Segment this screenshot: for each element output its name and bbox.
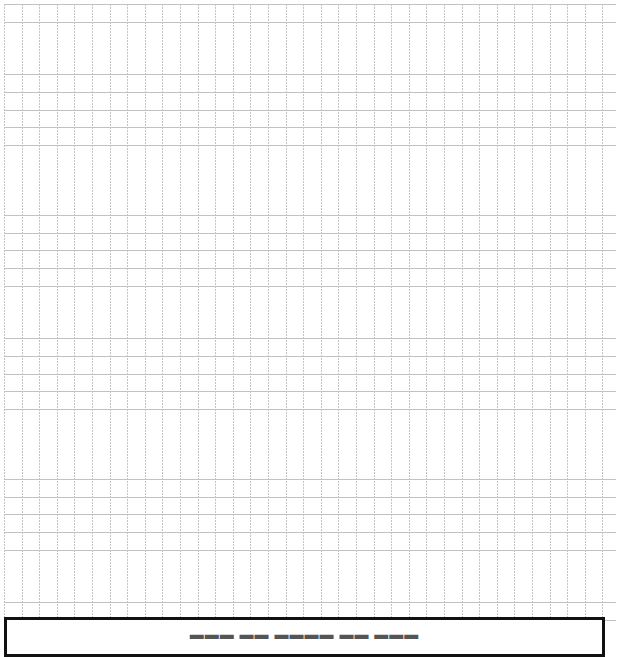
bottom-caption-box: ▬▬▬ ▬▬ ▬▬▬▬ ▬▬ ▬▬▬ xyxy=(4,617,605,657)
caption-label-clipped: ▬▬▬ ▬▬ ▬▬▬▬ ▬▬ ▬▬▬ xyxy=(7,626,602,642)
graph-paper-grid xyxy=(4,4,616,630)
